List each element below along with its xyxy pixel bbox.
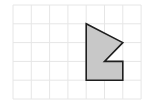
grid-canvas xyxy=(0,0,147,107)
grid-diagram xyxy=(0,0,147,107)
grid-lines xyxy=(13,5,141,99)
